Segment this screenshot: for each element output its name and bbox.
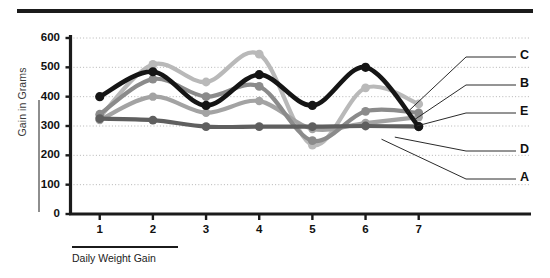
series-marker-A <box>255 122 264 131</box>
series-marker-C <box>201 101 210 110</box>
y-tick-label: 100 <box>26 178 60 190</box>
x-tick-label: 6 <box>356 223 376 235</box>
legend-label-C: C <box>520 48 529 62</box>
legend-label-A: A <box>520 170 529 184</box>
series-marker-C <box>414 122 423 131</box>
series-marker-C <box>308 101 317 110</box>
y-tick-label: 0 <box>26 207 60 219</box>
series-marker-E <box>414 108 423 117</box>
y-tick-label: 500 <box>26 60 60 72</box>
series-marker-A <box>95 114 104 123</box>
series-marker-B <box>361 83 370 92</box>
series-marker-A <box>149 116 158 125</box>
series-marker-D <box>149 92 157 100</box>
series-marker-C <box>148 67 157 76</box>
series-marker-A <box>361 122 370 131</box>
series-marker-D <box>255 97 263 105</box>
y-tick-label: 200 <box>26 148 60 160</box>
y-tick-label: 600 <box>26 31 60 43</box>
chart-svg <box>0 0 550 278</box>
leader-line-B <box>415 85 516 120</box>
x-tick-label: 3 <box>196 223 216 235</box>
series-marker-B <box>255 50 264 59</box>
series-marker-E <box>255 82 264 91</box>
series-marker-E <box>202 92 211 101</box>
series-marker-C <box>361 63 370 72</box>
x-tick-label: 5 <box>302 223 322 235</box>
series-marker-A <box>308 122 317 131</box>
x-tick-label: 2 <box>143 223 163 235</box>
y-tick-label: 400 <box>26 90 60 102</box>
leader-line-E <box>417 113 516 126</box>
x-axis-title: Daily Weight Gain <box>72 252 156 264</box>
series-marker-E <box>361 107 370 116</box>
series-marker-C <box>255 70 264 79</box>
x-tick-label: 1 <box>90 223 110 235</box>
leader-line-D <box>395 137 516 151</box>
series-marker-E <box>308 136 317 145</box>
leader-line-A <box>382 139 517 179</box>
series-marker-C <box>95 92 104 101</box>
legend-label-E: E <box>520 104 528 118</box>
series-group <box>95 50 423 150</box>
chart-figure: Gain in Grams 6005004003002001000 123456… <box>0 0 550 278</box>
x-tick-label: 4 <box>249 223 269 235</box>
series-marker-B <box>202 78 211 87</box>
legend-label-D: D <box>520 142 529 156</box>
legend-label-B: B <box>520 76 529 90</box>
x-axis-title-rule <box>72 246 178 248</box>
chart-plot-area: Gain in Grams 6005004003002001000 123456… <box>0 0 550 278</box>
series-marker-A <box>202 122 211 131</box>
y-tick-label: 300 <box>26 119 60 131</box>
x-tick-label: 7 <box>409 223 429 235</box>
